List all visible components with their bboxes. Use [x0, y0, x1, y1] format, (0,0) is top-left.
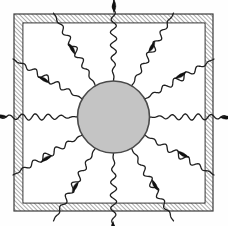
radiation-diagram	[0, 0, 228, 226]
central-sphere	[78, 81, 150, 153]
figure-container	[0, 0, 228, 226]
sphere-body	[78, 81, 150, 153]
